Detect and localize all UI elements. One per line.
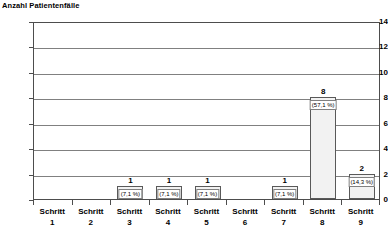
x-axis-category-label: Schritt6 <box>226 206 265 228</box>
x-label-line1: Schritt <box>303 206 342 217</box>
x-tick-mark <box>379 200 380 205</box>
x-axis-labels: Schritt1Schritt2Schritt3Schritt4Schritt5… <box>33 206 380 240</box>
bar-value-label: 1 <box>128 177 132 185</box>
bar-percent-label: (57,1 %) <box>310 100 337 110</box>
y-tick-mark <box>29 149 33 150</box>
bar-value-label: 1 <box>282 177 286 185</box>
x-label-line2: 2 <box>72 217 111 228</box>
x-label-line2: 6 <box>226 217 265 228</box>
x-axis-category-label: Schritt7 <box>264 206 303 228</box>
x-label-line1: Schritt <box>110 206 149 217</box>
y-tick-mark <box>29 22 33 23</box>
y-tick-label: 6 <box>362 120 388 128</box>
bar-percent-label: (7,1 %) <box>273 189 296 199</box>
x-axis-category-label: Schritt8 <box>303 206 342 228</box>
x-label-line1: Schritt <box>187 206 226 217</box>
x-label-line2: 7 <box>264 217 303 228</box>
x-tick-mark <box>341 200 342 205</box>
y-tick-label: 4 <box>362 145 388 153</box>
y-tick-label: 10 <box>362 69 388 77</box>
bar-percent-label: (7,1 %) <box>196 189 219 199</box>
x-label-line2: 1 <box>33 217 72 228</box>
bar-percent-label: (7,1 %) <box>157 189 180 199</box>
x-tick-mark <box>33 200 34 205</box>
x-axis-category-label: Schritt1 <box>33 206 72 228</box>
y-tick-label: 8 <box>362 94 388 102</box>
x-axis-category-label: Schritt5 <box>187 206 226 228</box>
x-label-line1: Schritt <box>149 206 188 217</box>
bar-value-label: 1 <box>167 177 171 185</box>
x-label-line2: 3 <box>110 217 149 228</box>
x-tick-mark <box>264 200 265 205</box>
y-tick-label: 14 <box>362 18 388 26</box>
y-tick-label: 2 <box>362 171 388 179</box>
x-tick-mark <box>303 200 304 205</box>
bar-value-label: 1 <box>205 177 209 185</box>
x-label-line1: Schritt <box>226 206 265 217</box>
plot-area: 1(7,1 %)1(7,1 %)1(7,1 %)1(7,1 %)8(57,1 %… <box>33 22 380 200</box>
x-label-line2: 5 <box>187 217 226 228</box>
y-tick-mark <box>29 73 33 74</box>
bar-chart: Anzahl Patientenfälle 1(7,1 %)1(7,1 %)1(… <box>0 0 388 242</box>
y-tick-mark <box>29 175 33 176</box>
bar-value-label: 8 <box>321 88 325 96</box>
x-label-line1: Schritt <box>33 206 72 217</box>
bar <box>310 97 336 199</box>
x-tick-mark <box>110 200 111 205</box>
bar-percent-label: (7,1 %) <box>119 189 142 199</box>
y-axis-title: Anzahl Patientenfälle <box>2 1 80 10</box>
x-axis-category-label: Schritt2 <box>72 206 111 228</box>
x-label-line2: 4 <box>149 217 188 228</box>
y-tick-mark <box>29 124 33 125</box>
x-label-line1: Schritt <box>264 206 303 217</box>
x-label-line1: Schritt <box>341 206 380 217</box>
y-tick-label: 12 <box>362 43 388 51</box>
x-axis-category-label: Schritt9 <box>341 206 380 228</box>
x-tick-mark <box>72 200 73 205</box>
x-tick-mark <box>187 200 188 205</box>
x-axis-category-label: Schritt4 <box>149 206 188 228</box>
y-tick-mark <box>29 47 33 48</box>
x-tick-mark <box>226 200 227 205</box>
bars-layer: 1(7,1 %)1(7,1 %)1(7,1 %)1(7,1 %)8(57,1 %… <box>34 23 379 199</box>
x-axis-ticks <box>33 200 380 205</box>
x-label-line2: 9 <box>341 217 380 228</box>
y-tick-mark <box>29 98 33 99</box>
x-tick-mark <box>149 200 150 205</box>
x-label-line2: 8 <box>303 217 342 228</box>
x-axis-category-label: Schritt3 <box>110 206 149 228</box>
x-label-line1: Schritt <box>72 206 111 217</box>
